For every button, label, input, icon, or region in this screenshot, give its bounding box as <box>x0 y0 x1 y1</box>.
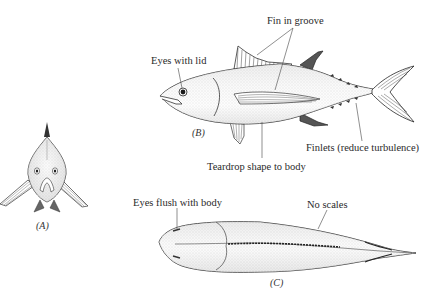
fish-top-view <box>159 222 416 273</box>
panel-label-a: (A) <box>36 221 49 231</box>
fish-front-view <box>0 122 88 212</box>
label-teardrop: Teardrop shape to body <box>207 162 306 173</box>
label-finlets: Finlets (reduce turbulence) <box>306 143 419 154</box>
label-eyes-flush: Eyes flush with body <box>133 198 222 209</box>
label-fin-in-groove: Fin in groove <box>267 16 324 27</box>
panel-label-b: (B) <box>192 128 205 138</box>
fish-anatomy-figure: Eyes with lid Fin in groove Finlets (red… <box>0 0 438 288</box>
panel-label-c: (C) <box>270 278 283 288</box>
label-eyes-with-lid: Eyes with lid <box>151 56 206 67</box>
label-no-scales: No scales <box>307 200 348 211</box>
